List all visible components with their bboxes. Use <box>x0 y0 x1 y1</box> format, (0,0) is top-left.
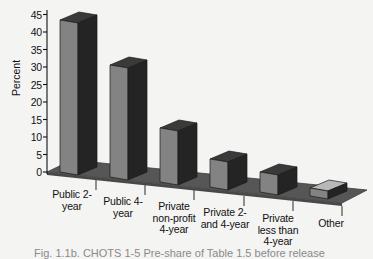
category-label-line: Private <box>249 213 307 225</box>
category-label-line: Public 2- <box>43 189 101 201</box>
category-label-line: Private 2- <box>194 207 256 219</box>
bar-front-face <box>210 159 228 190</box>
category-label-other: Other <box>308 218 354 230</box>
y-axis-ticks <box>43 15 47 173</box>
category-label-private-2-and-4-year: Private 2- and 4-year <box>194 207 256 230</box>
bar-side-face <box>178 123 197 185</box>
bar-side-face <box>78 15 97 175</box>
bar-public-2-year[interactable] <box>60 12 97 175</box>
category-label-line: and 4-year <box>194 219 256 231</box>
bar-front-face <box>110 65 128 180</box>
category-label-line: year <box>94 208 152 220</box>
figure-caption: Fig. 1.1b. CHOTS 1-5 Pre-share of Table … <box>34 247 364 259</box>
category-label-public-4-year: Public 4- year <box>94 196 152 219</box>
bar-side-face <box>128 60 147 180</box>
category-label-line: year <box>43 201 101 213</box>
bar-private-2-and-4-year[interactable] <box>210 151 247 190</box>
category-label-line: 4-year <box>249 236 307 248</box>
bar-public-4-year[interactable] <box>110 57 147 180</box>
bar-front-face <box>260 172 278 195</box>
bar-private-non-profit-4-year[interactable] <box>160 120 197 185</box>
category-label-public-2-year: Public 2- year <box>43 189 101 212</box>
category-label-line: Public 4- <box>94 196 152 208</box>
category-label-private-less-than-4-year: Private less than 4-year <box>249 213 307 248</box>
category-label-line: Other <box>308 218 354 230</box>
bar-front-face <box>160 128 178 185</box>
bar-front-face <box>60 20 78 175</box>
